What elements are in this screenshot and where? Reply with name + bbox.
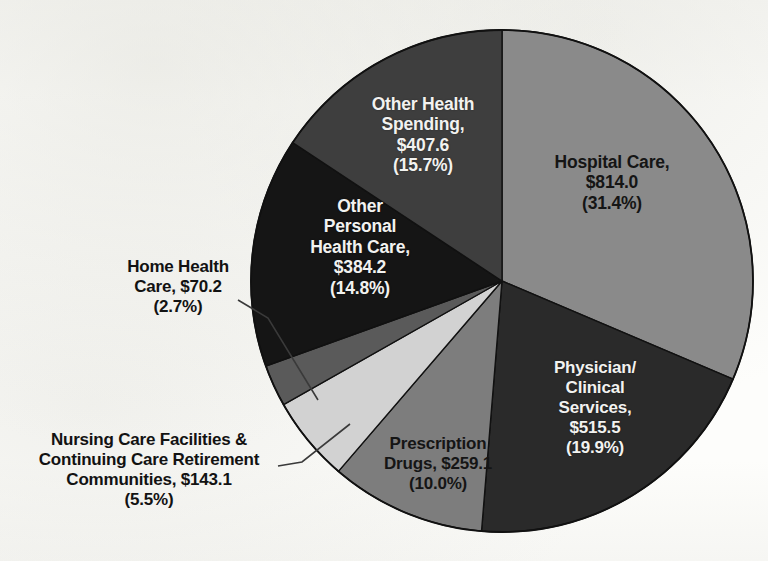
slice-label-hospital-care: Hospital Care, $814.0 (31.4%) xyxy=(524,152,700,213)
slice-label-other-personal-health-care: Other Personal Health Care, $384.2 (14.8… xyxy=(284,196,436,298)
slice-label-home-health-care: Home Health Care, $70.2 (2.7%) xyxy=(96,257,260,317)
slice-label-physician-clinical-services: Physician/ Clinical Services, $515.5 (19… xyxy=(524,358,666,457)
slice-label-other-health-spending: Other Health Spending, $407.6 (15.7%) xyxy=(341,94,505,176)
pie-chart-figure: Hospital Care, $814.0 (31.4%) Physician/… xyxy=(0,0,768,561)
slice-label-nursing-care-facilities: Nursing Care Facilities & Continuing Car… xyxy=(16,430,282,510)
slice-label-prescription-drugs: Prescription Drugs, $259.1 (10.0%) xyxy=(356,434,520,494)
